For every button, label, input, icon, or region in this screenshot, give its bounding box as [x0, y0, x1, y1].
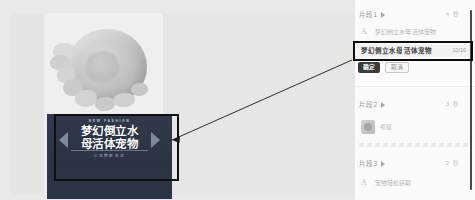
clip-thumbnail-row[interactable]: 视频	[361, 120, 471, 136]
canvas-left-strip	[11, 13, 44, 195]
jellyfish-tentacle	[131, 83, 148, 96]
edit-field-highlight-box	[353, 41, 473, 61]
confirm-button[interactable]: 确定	[358, 62, 380, 73]
clip-row-2[interactable]: 片段2 3 秒	[359, 98, 471, 111]
panel-scrollbar[interactable]	[470, 10, 472, 190]
jellyfish-tentacle	[113, 93, 135, 107]
play-triangle-icon[interactable]	[381, 12, 385, 18]
preview-canvas: NEW FASHION 梦幻倒立水 母活体宠物 小宠物新生活	[11, 13, 355, 195]
screenshot-root: NEW FASHION 梦幻倒立水 母活体宠物 小宠物新生活 片段1 4 秒	[0, 0, 475, 200]
clip-row-1[interactable]: 片段1 4 秒	[359, 8, 471, 21]
clip-label: 片段2	[359, 98, 377, 111]
clip-duration: 4 秒	[446, 8, 461, 21]
play-triangle-icon[interactable]	[381, 102, 385, 108]
jellyfish-core	[85, 51, 119, 83]
clip-label: 片段1	[359, 8, 377, 21]
cancel-button[interactable]: 取消	[385, 62, 409, 73]
clip-text-label: 宠物轻松获取	[375, 177, 412, 189]
canvas-right-strip	[163, 13, 355, 195]
placeholder-text-line	[359, 143, 469, 147]
panel-divider	[355, 86, 475, 87]
jellyfish-tentacle	[75, 90, 97, 107]
clip-thumbnail[interactable]	[361, 120, 375, 134]
clip-duration: 3 秒	[446, 98, 461, 111]
clip-row-3[interactable]: 片段3 2 秒	[359, 157, 471, 170]
play-triangle-icon[interactable]	[381, 161, 385, 167]
edit-button-row: 确定 取消	[358, 62, 468, 74]
thumbnail-label: 视频	[380, 120, 392, 134]
clip-label: 片段3	[359, 157, 377, 170]
clip-text-row-3[interactable]: A 宠物轻松获取	[361, 177, 471, 189]
thumbnail-image-icon	[364, 123, 372, 131]
jellyfish-photo	[49, 21, 156, 116]
text-A-icon: A	[361, 177, 367, 189]
banner-highlight-box	[54, 114, 179, 181]
jellyfish-tentacle	[95, 97, 115, 111]
clips-sidebar-panel: 片段1 4 秒 A 梦幻倒立水母活体宠物 梦幻倒立水母活体宠物 10/10 确定…	[355, 0, 475, 200]
clip-duration: 2 秒	[446, 157, 461, 170]
